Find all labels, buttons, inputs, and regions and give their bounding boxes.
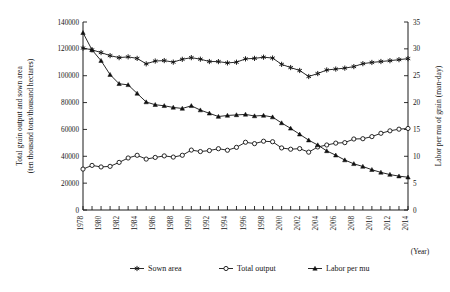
x-tick-label: 1982 [113,216,121,231]
circle-marker [325,143,329,147]
right-tick-label: 5 [413,180,417,188]
circle-marker [180,153,184,157]
circle-marker [90,163,94,167]
circle-marker [243,140,247,144]
legend-marker [224,266,228,270]
circle-marker [135,153,139,157]
circle-marker [117,160,121,164]
circle-marker [153,155,157,159]
circle-marker [307,150,311,154]
left-tick-label: 140000 [57,19,79,27]
x-tick-label: 2014 [402,216,410,231]
left-tick-label: 40000 [61,153,79,161]
left-tick-label: 0 [75,207,79,215]
left-tick-label: 120000 [57,45,79,53]
circle-marker [162,154,166,158]
circle-marker [352,137,356,141]
circle-marker [171,155,175,159]
circle-marker [289,147,293,151]
x-tick-label: 1984 [131,216,139,231]
circle-marker [361,137,365,141]
circle-marker [334,141,338,145]
x-tick-label: 1998 [258,216,266,231]
circle-marker [280,146,284,150]
circle-marker [397,127,401,131]
circle-marker [81,167,85,171]
circle-marker [207,148,211,152]
circle-marker [224,266,228,270]
right-tick-label: 10 [413,153,421,161]
x-tick-label: 2006 [330,216,338,231]
circle-marker [261,139,265,143]
x-tick-label: 2012 [384,216,392,231]
x-tick-label: 2008 [348,216,356,231]
circle-marker [388,129,392,133]
grain-trends-chart: 020000400006000080000100000120000140000 … [0,0,450,292]
circle-marker [370,135,374,139]
circle-marker [189,148,193,152]
chart-figure: 020000400006000080000100000120000140000 … [0,0,450,292]
x-tick-label: 2000 [276,216,284,231]
circle-marker [270,140,274,144]
right-tick-label: 25 [413,72,421,80]
right-axis-title: Labor per mu of grain (man-day) [434,65,443,166]
circle-marker [343,141,347,145]
left-tick-label: 80000 [61,99,79,107]
right-tick-label: 20 [413,99,421,107]
circle-marker [225,148,229,152]
chart-background [0,0,450,292]
circle-marker [144,157,148,161]
circle-marker [216,147,220,151]
x-axis-unit-label: (Year) [411,247,430,256]
left-tick-label: 100000 [57,72,79,80]
left-tick-label: 20000 [61,180,79,188]
circle-marker [99,165,103,169]
circle-marker [406,126,410,130]
x-tick-label: 1992 [203,216,211,231]
x-tick-label: 1990 [185,216,193,231]
chart-legend: Sown areaTotal outputLabor per mu [130,264,370,273]
legend-label: Total output [237,264,277,273]
circle-marker [108,164,112,168]
x-tick-label: 2004 [312,216,320,231]
right-tick-label: 35 [413,19,421,27]
x-tick-label: 1994 [221,216,229,231]
circle-marker [198,149,202,153]
x-tick-label: 1986 [149,216,157,231]
circle-marker [126,156,130,160]
x-tick-label: 1978 [77,216,85,231]
left-axis-title-line2: (ten thousand tons/thousand hectares) [26,58,35,173]
circle-marker [298,147,302,151]
x-tick-label: 1996 [240,216,248,231]
circle-marker [252,142,256,146]
x-tick-label: 1988 [167,216,175,231]
right-tick-label: 0 [413,207,417,215]
left-tick-label: 60000 [61,126,79,134]
x-tick-label: 2002 [294,216,302,231]
right-tick-label: 30 [413,45,421,53]
legend-label: Labor per mu [326,264,370,273]
left-axis-title-line1: Total grain output and sown area [15,66,24,166]
x-tick-label: 1980 [95,216,103,231]
circle-marker [234,145,238,149]
x-tick-label: 2010 [366,216,374,231]
circle-marker [379,131,383,135]
right-tick-label: 15 [413,126,421,134]
legend-label: Sown area [148,264,182,273]
